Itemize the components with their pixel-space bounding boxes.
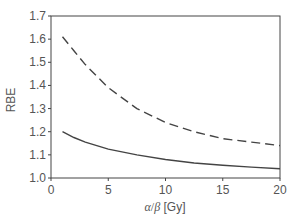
x-tick-label: 0 <box>48 183 55 197</box>
x-axis-label: α/β [Gy] <box>145 200 186 214</box>
dashed-series-line <box>63 37 281 146</box>
y-tick-label: 1.7 <box>29 9 46 23</box>
x-tick-label: 10 <box>159 183 173 197</box>
solid-series-line <box>63 132 281 169</box>
y-tick-label: 1.3 <box>29 102 46 116</box>
y-axis: 1.01.11.21.31.41.51.61.7 <box>29 9 51 185</box>
chart: 1.01.11.21.31.41.51.61.7 05101520 RBE α/… <box>0 0 301 219</box>
x-tick-label: 5 <box>105 183 112 197</box>
y-tick-label: 1.1 <box>29 148 46 162</box>
y-tick-label: 1.2 <box>29 125 46 139</box>
x-tick-label: 20 <box>273 183 287 197</box>
y-tick-label: 1.5 <box>29 55 46 69</box>
x-tick-label: 15 <box>216 183 230 197</box>
plot-frame <box>51 16 280 178</box>
y-tick-label: 1.4 <box>29 78 46 92</box>
y-axis-label: RBE <box>4 88 18 113</box>
x-axis: 05101520 <box>48 178 287 197</box>
y-tick-label: 1.0 <box>29 171 46 185</box>
y-tick-label: 1.6 <box>29 32 46 46</box>
